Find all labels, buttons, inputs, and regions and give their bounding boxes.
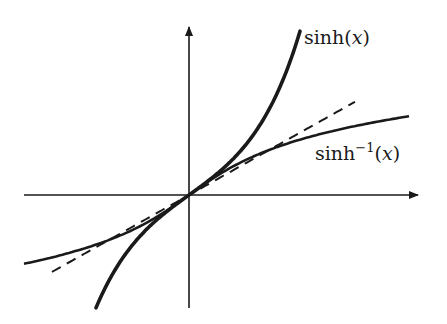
identity-line [52,102,355,272]
asinh-label: sinh−1(x) [315,140,400,164]
sinh-curve [96,31,300,308]
asinh-curve [24,116,409,263]
sinh-asinh-diagram: sinh(x) sinh−1(x) [0,0,447,324]
sinh-label: sinh(x) [304,26,370,48]
